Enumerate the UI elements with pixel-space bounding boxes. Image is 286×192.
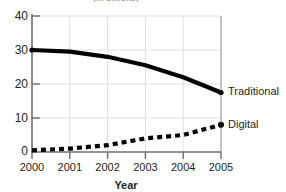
series-label-traditional: Traditional [228, 85, 279, 97]
x-tick-label-2003: 2003 [133, 161, 157, 173]
y-axis-ticks [32, 16, 40, 118]
y-tick-label-30: 30 [15, 43, 29, 57]
y-tick-label-0: 0 [21, 144, 28, 158]
x-tick-label-2005: 2005 [209, 161, 233, 173]
x-tick-label-2000: 2000 [20, 161, 44, 173]
series-line-digital [32, 125, 221, 151]
x-axis-tick-labels: 2000 2001 2002 2003 2004 2005 [20, 161, 233, 173]
x-axis-title: Year [114, 179, 138, 191]
series-marker-digital-end [218, 122, 224, 128]
x-tick-label-2002: 2002 [95, 161, 119, 173]
gridlines-horizontal [32, 16, 221, 118]
series-marker-traditional-start [29, 47, 34, 52]
series-label-digital: Digital [228, 118, 259, 130]
y-axis-tick-labels: 40 30 20 10 0 [15, 9, 29, 158]
line-chart: (in billions) [0, 0, 286, 192]
chart-plot-area: 40 30 20 10 0 2000 2001 2002 2003 2004 2… [0, 0, 286, 192]
x-tick-label-2001: 2001 [58, 161, 82, 173]
x-tick-label-2004: 2004 [171, 161, 195, 173]
series-line-traditional [32, 50, 221, 93]
series-marker-traditional-end [218, 90, 223, 95]
x-axis-ticks [32, 152, 221, 159]
y-tick-label-20: 20 [15, 77, 29, 91]
y-tick-label-40: 40 [15, 9, 29, 23]
y-tick-label-10: 10 [15, 111, 29, 125]
